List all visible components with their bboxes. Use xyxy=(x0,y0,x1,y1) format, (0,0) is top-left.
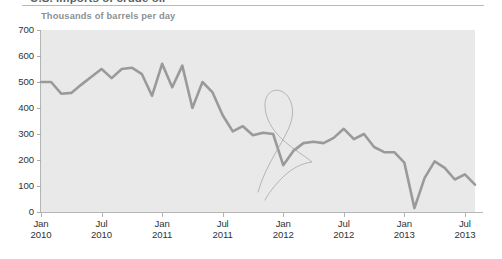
data-series-line xyxy=(41,64,475,208)
series-layer xyxy=(0,0,502,259)
chart-figure: U.S. imports of crude oil Thousands of b… xyxy=(0,0,502,259)
handwritten-loop-annotation xyxy=(258,90,312,200)
